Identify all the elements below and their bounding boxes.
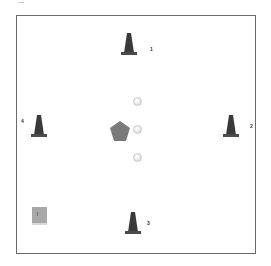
cone-label: 1: [150, 46, 153, 52]
cone-label: 3: [147, 220, 150, 226]
cone-label: 4: [21, 118, 24, 124]
corner-mark: [18, 2, 24, 6]
cone-icon: [121, 32, 137, 56]
cone-label: 2: [250, 123, 253, 129]
cone-icon: [125, 211, 141, 235]
cone-icon: [31, 114, 47, 138]
ball-icon: [133, 97, 142, 106]
ball-icon: [133, 153, 142, 162]
ball-icon: [133, 125, 142, 134]
pentagon-player-icon: [109, 120, 131, 142]
cone-icon: [223, 114, 239, 138]
square-mark: [37, 212, 41, 216]
goal-square-icon: [32, 207, 47, 225]
